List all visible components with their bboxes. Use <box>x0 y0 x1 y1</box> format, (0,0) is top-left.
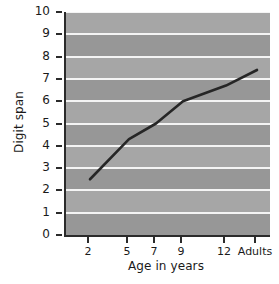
y-axis-tick-label: 1 <box>24 205 50 219</box>
y-axis-tick-label: 10 <box>24 4 50 18</box>
series-line-digit-span <box>90 70 257 179</box>
x-axis-tick <box>180 237 182 243</box>
x-axis-title: Age in years <box>64 259 268 273</box>
plot-area <box>64 12 270 237</box>
y-axis-tick-label: 7 <box>24 71 50 85</box>
y-axis-tick <box>56 189 62 191</box>
y-axis-tick-label: 4 <box>24 138 50 152</box>
y-axis-tick-label: 5 <box>24 116 50 130</box>
y-axis-tick <box>56 11 62 13</box>
y-axis-tick <box>56 100 62 102</box>
y-axis-tick <box>56 33 62 35</box>
y-axis-tick-label: 3 <box>24 160 50 174</box>
x-axis-tick <box>126 237 128 243</box>
y-axis-tick <box>56 56 62 58</box>
y-axis-tick-label: 0 <box>24 227 50 241</box>
y-axis-tick <box>56 212 62 214</box>
y-axis-tick <box>56 145 62 147</box>
x-axis-tick <box>153 237 155 243</box>
y-axis-tick <box>56 167 62 169</box>
x-axis-tick <box>254 237 256 243</box>
y-axis-tick <box>56 78 62 80</box>
x-axis-tick <box>223 237 225 243</box>
y-axis-tick-label: 8 <box>24 49 50 63</box>
y-axis-tick <box>56 234 62 236</box>
digit-span-line-chart: Digit span 012345678910 257912Adults Age… <box>0 0 279 284</box>
y-axis-tick-label: 6 <box>24 93 50 107</box>
y-axis-tick-label: 2 <box>24 182 50 196</box>
x-axis-tick <box>87 237 89 243</box>
series-line-group <box>66 12 270 235</box>
y-axis-tick-label: 9 <box>24 26 50 40</box>
x-axis-tick-label: Adults <box>225 245 279 258</box>
y-axis-tick <box>56 123 62 125</box>
